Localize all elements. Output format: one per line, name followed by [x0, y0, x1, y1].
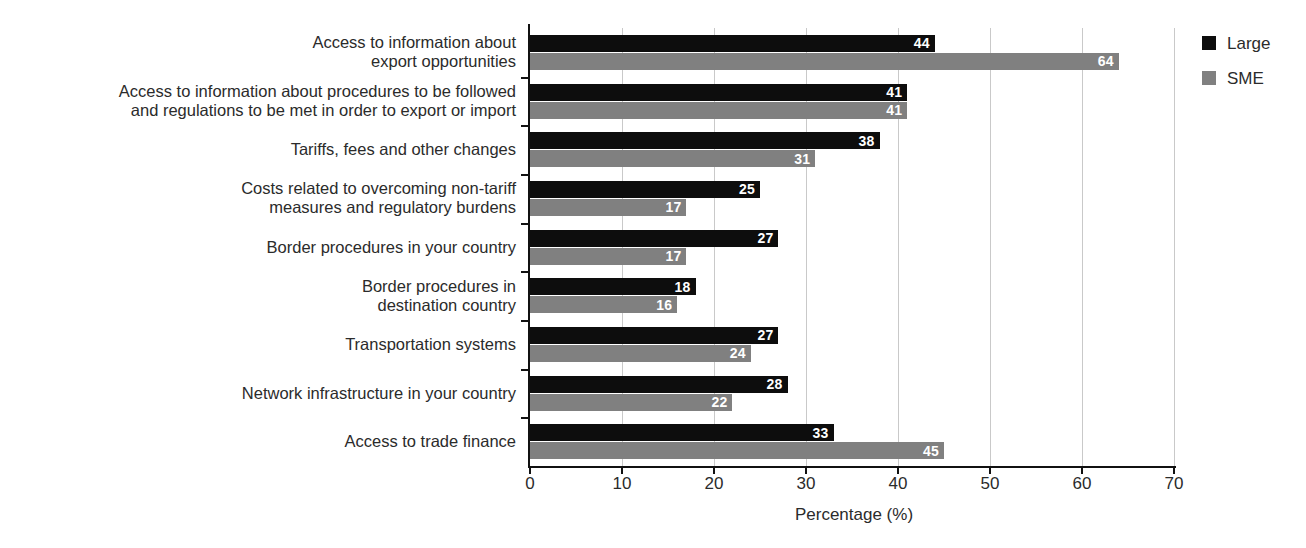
x-axis-line — [528, 466, 1176, 468]
bar-large: 27 — [530, 327, 778, 344]
category-label: Transportation systems — [0, 335, 516, 354]
category-label: Tariffs, fees and other changes — [0, 140, 516, 159]
bar-sme: 22 — [530, 394, 732, 411]
bar-sme: 64 — [530, 53, 1119, 70]
legend-label: SME — [1227, 70, 1264, 87]
bar-value-label: 24 — [730, 346, 751, 360]
bar-value-label: 38 — [859, 134, 880, 148]
bar-large: 25 — [530, 181, 760, 198]
x-axis-tick-label: 20 — [684, 474, 744, 494]
x-axis-tick-label: 60 — [1052, 474, 1112, 494]
legend-swatch-icon — [1202, 71, 1216, 85]
bar-large: 18 — [530, 278, 696, 295]
y-axis-tick — [521, 77, 529, 79]
bar-value-label: 25 — [739, 182, 760, 196]
bar-large: 27 — [530, 230, 778, 247]
y-axis-tick — [521, 174, 529, 176]
x-axis-tick-label: 70 — [1144, 474, 1204, 494]
bar-large: 44 — [530, 35, 935, 52]
bar-value-label: 41 — [886, 103, 907, 117]
x-axis-tick — [713, 466, 715, 474]
legend-item-large[interactable]: Large — [1202, 33, 1270, 53]
bar-large: 28 — [530, 376, 788, 393]
bar-sme: 45 — [530, 442, 944, 459]
bar-value-label: 17 — [665, 200, 686, 214]
y-axis-tick — [521, 271, 529, 273]
x-axis-tick-label: 40 — [868, 474, 928, 494]
x-axis-tick-label: 0 — [500, 474, 560, 494]
bar-sme: 17 — [530, 199, 686, 216]
x-axis-tick — [621, 466, 623, 474]
x-axis-tick — [897, 466, 899, 474]
bar-large: 41 — [530, 84, 907, 101]
category-label: Access to information about procedures t… — [0, 82, 516, 120]
gridline — [1082, 28, 1083, 466]
y-axis-tick — [521, 223, 529, 225]
category-label: Access to trade finance — [0, 432, 516, 451]
y-axis-tick — [521, 369, 529, 371]
bar-value-label: 22 — [711, 395, 732, 409]
bar-value-label: 64 — [1098, 54, 1119, 68]
bar-chart: Access to information about export oppor… — [0, 0, 1306, 548]
bar-value-label: 33 — [813, 426, 834, 440]
category-label: Access to information about export oppor… — [0, 33, 516, 71]
bar-large: 38 — [530, 132, 880, 149]
x-axis-tick-label: 10 — [592, 474, 652, 494]
category-label: Network infrastructure in your country — [0, 384, 516, 403]
bar-value-label: 41 — [886, 85, 907, 99]
bar-value-label: 18 — [675, 280, 696, 294]
x-axis-tick — [1081, 466, 1083, 474]
bar-sme: 16 — [530, 296, 677, 313]
bar-value-label: 28 — [767, 377, 788, 391]
bar-value-label: 31 — [794, 152, 815, 166]
x-axis-tick — [529, 466, 531, 474]
legend-label: Large — [1227, 35, 1270, 52]
x-axis-tick-labels: 010203040506070 — [530, 474, 1190, 500]
bar-sme: 41 — [530, 102, 907, 119]
x-axis-tick-label: 50 — [960, 474, 1020, 494]
y-axis-tick — [521, 320, 529, 322]
bar-value-label: 44 — [914, 36, 935, 50]
category-label: Costs related to overcoming non-tariff m… — [0, 179, 516, 217]
y-axis-tick — [521, 417, 529, 419]
bar-value-label: 45 — [923, 444, 944, 458]
x-axis-tick — [989, 466, 991, 474]
legend-item-sme[interactable]: SME — [1202, 68, 1270, 88]
bar-large: 33 — [530, 424, 834, 441]
bar-sme: 31 — [530, 150, 815, 167]
legend-swatch-icon — [1202, 36, 1216, 50]
bar-sme: 24 — [530, 345, 751, 362]
gridline — [1174, 28, 1175, 466]
x-axis-title: Percentage (%) — [530, 505, 1178, 525]
x-axis-tick — [1173, 466, 1175, 474]
y-axis-tick — [521, 125, 529, 127]
bar-value-label: 16 — [656, 298, 677, 312]
bar-value-label: 27 — [757, 231, 778, 245]
x-axis-tick — [805, 466, 807, 474]
category-label: Border procedures in your country — [0, 238, 516, 257]
gridline — [990, 28, 991, 466]
plot-area: 446441413831251727171816272428223345 — [530, 28, 1174, 466]
category-label: Border procedures in destination country — [0, 277, 516, 315]
bar-value-label: 27 — [757, 328, 778, 342]
x-axis-tick-label: 30 — [776, 474, 836, 494]
legend: LargeSME — [1202, 33, 1270, 103]
bar-sme: 17 — [530, 248, 686, 265]
bar-value-label: 17 — [665, 249, 686, 263]
